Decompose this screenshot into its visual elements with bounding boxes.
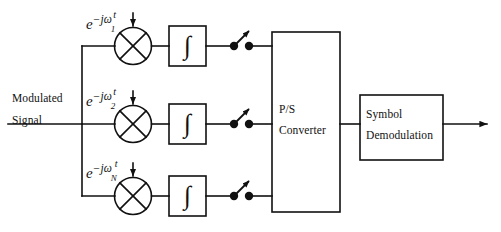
ps-converter-label-line2: Converter (279, 125, 326, 137)
input-signal-label-line1: Modulated (12, 93, 63, 105)
branch-1-integral-icon: ∫ (182, 31, 193, 61)
figure-canvas: ∫ ∫ ∫ Modulated Signal e−jω1t e−jω2t e−j… (0, 0, 501, 232)
branch-1-carrier-subscript: 1 (111, 24, 116, 34)
branch-1-carrier-label: e−jω1t (86, 16, 119, 33)
branch-2-integral-icon: ∫ (182, 109, 193, 139)
branch-3-integral-icon: ∫ (182, 181, 193, 211)
branch-2-carrier-subscript: 2 (111, 101, 116, 111)
branch-3-carrier-subscript: N (111, 173, 117, 183)
ps-converter-label-line1: P/S (279, 104, 326, 116)
symbol-demodulation-label-line2: Demodulation (366, 130, 433, 142)
branch-1-sampler (230, 31, 253, 50)
branch-1-carrier-base: e (86, 16, 93, 32)
branch-3-carrier-label: e−jωNt (86, 165, 121, 182)
branch-2-carrier-base: e (86, 93, 93, 109)
symbol-demodulation-label: Symbol Demodulation (366, 109, 433, 141)
branch-2-sampler (230, 109, 253, 128)
symbol-demodulation-label-line1: Symbol (366, 109, 433, 121)
ps-converter-label: P/S Converter (279, 104, 326, 136)
branch-1-carrier-time: t (113, 9, 116, 20)
branch-3-carrier-base: e (86, 165, 93, 181)
branch-2-carrier-time: t (113, 86, 116, 97)
branch-2-carrier-label: e−jω2t (86, 93, 119, 110)
branch-3-carrier-time: t (115, 158, 118, 169)
branch-3-sampler (230, 181, 253, 200)
input-signal-label: Modulated Signal (12, 93, 63, 126)
input-signal-label-line2: Signal (12, 115, 63, 127)
